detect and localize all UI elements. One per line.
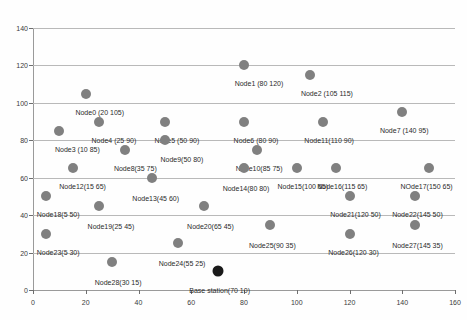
node-label: Node9(50 80) <box>160 156 203 163</box>
node-marker[interactable] <box>160 117 170 127</box>
y-tick-label: 120 <box>6 62 28 69</box>
node-label: Node19(25 45) <box>88 223 135 230</box>
node-marker[interactable] <box>345 229 355 239</box>
node-label: Node2 (105 115) <box>301 90 353 97</box>
node-marker[interactable] <box>345 191 355 201</box>
x-tick-mark <box>33 290 34 294</box>
x-tick-mark <box>455 290 456 294</box>
node-label: Node4 (25 90) <box>92 137 137 144</box>
node-label: Node12(15 65) <box>59 183 106 190</box>
x-tick-label: 60 <box>187 299 195 306</box>
node-label: Node22(145 50) <box>392 211 443 218</box>
node-marker[interactable] <box>239 60 249 70</box>
x-tick-label: 160 <box>449 299 461 306</box>
node-label: Node21(120 50) <box>330 211 381 218</box>
node-label: Node13(45 60) <box>132 195 179 202</box>
gridline-horizontal <box>33 103 455 104</box>
y-tick-label: 80 <box>6 137 28 144</box>
gridline-horizontal <box>33 28 455 29</box>
x-tick-label: 20 <box>82 299 90 306</box>
y-tick-label: 140 <box>6 25 28 32</box>
gridline-horizontal <box>33 178 455 179</box>
node-marker[interactable] <box>54 126 64 136</box>
x-tick-mark <box>86 290 87 294</box>
y-tick-label: 40 <box>6 212 28 219</box>
base-station-label: Base station(70 10) <box>189 287 250 294</box>
node-label: Node27(145 35) <box>392 242 443 249</box>
node-marker[interactable] <box>292 163 302 173</box>
node-label: Node1 (80 120) <box>235 80 284 87</box>
node-marker[interactable] <box>94 117 104 127</box>
node-label: Node28(30 15) <box>95 279 142 286</box>
node-marker[interactable] <box>199 201 209 211</box>
node-marker[interactable] <box>41 229 51 239</box>
plot-area: Node0 (20 105)Node1 (80 120)Node2 (105 1… <box>33 28 455 290</box>
x-tick-label: 80 <box>240 299 248 306</box>
node-label: Node20(65 45) <box>187 223 234 230</box>
node-label: Node8(35 75) <box>114 165 157 172</box>
node-marker[interactable] <box>160 135 170 145</box>
x-tick-label: 140 <box>396 299 408 306</box>
x-tick-label: 40 <box>135 299 143 306</box>
node-marker[interactable] <box>147 173 157 183</box>
node-label: NOde17(150 65) <box>401 183 453 190</box>
node-marker[interactable] <box>68 163 78 173</box>
node-label: Node11(110 90) <box>304 137 354 144</box>
y-tick-label: 60 <box>6 174 28 181</box>
node-marker[interactable] <box>397 107 407 117</box>
y-axis <box>0 0 30 320</box>
node-label: Node14(80 80) <box>223 185 270 192</box>
node-marker[interactable] <box>173 238 183 248</box>
node-marker[interactable] <box>265 220 275 230</box>
x-tick-mark <box>402 290 403 294</box>
y-tick-label: 100 <box>6 99 28 106</box>
gridline-horizontal <box>33 253 455 254</box>
node-label: Node3 (10 85) <box>55 146 100 153</box>
node-label: Node6 (80 90) <box>234 137 279 144</box>
node-marker[interactable] <box>239 117 249 127</box>
node-marker[interactable] <box>120 145 130 155</box>
node-marker[interactable] <box>318 117 328 127</box>
scatter-plot-figure: 020406080100120140 020406080100120140160… <box>0 0 467 320</box>
node-label: Node23(5 30) <box>37 249 80 256</box>
node-marker[interactable] <box>305 70 315 80</box>
node-label: Node18(5 50) <box>37 211 80 218</box>
node-marker[interactable] <box>331 163 341 173</box>
node-marker[interactable] <box>410 191 420 201</box>
node-marker[interactable] <box>94 201 104 211</box>
node-label: Node0 (20 105) <box>75 109 124 116</box>
x-tick-mark <box>139 290 140 294</box>
node-label: Node7 (140 95) <box>380 127 429 134</box>
x-tick-mark <box>297 290 298 294</box>
node-label: Node26(120 30) <box>328 249 379 256</box>
node-marker[interactable] <box>410 220 420 230</box>
node-marker[interactable] <box>107 257 117 267</box>
x-tick-label: 120 <box>344 299 356 306</box>
node-label: Node25(90 35) <box>249 242 296 249</box>
x-tick-label: 100 <box>291 299 303 306</box>
base-station-marker[interactable] <box>212 266 223 277</box>
x-tick-mark <box>350 290 351 294</box>
y-tick-label: 20 <box>6 249 28 256</box>
node-label: Node24(55 25) <box>159 260 206 267</box>
y-tick-label: 0 <box>6 287 28 294</box>
node-marker[interactable] <box>424 163 434 173</box>
x-tick-label: 0 <box>31 299 35 306</box>
node-marker[interactable] <box>81 89 91 99</box>
node-label: Node16(115 65) <box>317 183 367 190</box>
node-marker[interactable] <box>239 163 249 173</box>
node-marker[interactable] <box>41 191 51 201</box>
node-marker[interactable] <box>252 145 262 155</box>
